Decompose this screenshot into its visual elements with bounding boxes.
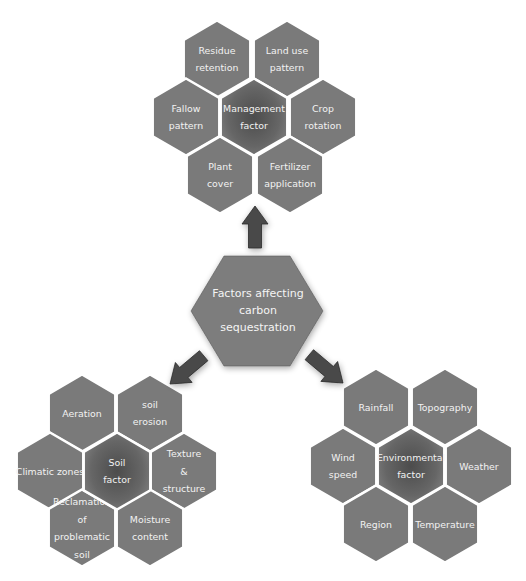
node-reclamation-label-line: soil <box>74 549 90 560</box>
node-fertilizer-label-line: application <box>264 178 316 189</box>
node-weather-label-line: Weather <box>459 461 499 472</box>
node-fallow-label-line: Fallow <box>172 103 201 114</box>
node-plant-cover-label-line: Plant <box>208 161 232 172</box>
node-topography-label-line: Topography <box>417 402 473 413</box>
node-fertilizer-label-line: Fertilizer <box>270 161 311 172</box>
node-region-label-line: Region <box>360 519 392 530</box>
main-label-line: Factors affecting <box>212 287 303 300</box>
node-wind-speed-label-line: speed <box>329 469 357 480</box>
main-label-line: carbon <box>239 304 277 317</box>
node-rainfall-label-line: Rainfall <box>359 402 394 413</box>
carbon-sequestration-diagram: ResidueretentionLand usepatternFallowpat… <box>0 0 526 581</box>
arrow-down-left-icon <box>170 351 208 384</box>
node-environmental-factor-label-line: Environmental <box>377 452 445 463</box>
node-plant-cover-label-line: cover <box>207 178 233 189</box>
node-soil-factor-label-line: Soil <box>109 457 126 468</box>
node-moisture-label-line: content <box>132 531 168 542</box>
node-texture-label-line: Texture <box>166 448 202 459</box>
node-climatic-zones-label-line: Climatic zones <box>16 466 84 477</box>
node-temperature-label-line: Temperature <box>414 519 475 530</box>
node-wind-speed-label-line: Wind <box>331 452 355 463</box>
node-aeration-label-line: Aeration <box>62 408 102 419</box>
node-management-factor-label-line: Management <box>223 103 285 114</box>
arrow-up-icon <box>242 206 268 248</box>
node-fallow-label-line: pattern <box>169 120 204 131</box>
cluster-environmental: RainfallTopographyWindspeedWeatherRegion… <box>310 369 513 563</box>
node-texture-label-line: & <box>180 466 188 477</box>
node-reclamation-label-line: of <box>77 514 87 525</box>
node-soil-erosion-label-line: soil <box>142 399 158 410</box>
node-reclamation-label-line: problematic <box>54 531 110 542</box>
arrow-down-right-icon <box>305 350 343 383</box>
node-crop-label-line: Crop <box>312 103 334 114</box>
node-residue-label-line: Residue <box>198 45 235 56</box>
node-management-factor-label-line: factor <box>240 120 268 131</box>
node-factors-affecting-carbon-sequestration: Factors affectingcarbonsequestration <box>191 256 323 366</box>
main-label-line: sequestration <box>220 321 296 334</box>
node-soil-erosion-label-line: erosion <box>133 416 167 427</box>
cluster-soil: AerationsoilerosionClimatic zonesTexture… <box>16 375 217 567</box>
node-land-use-label-line: Land use <box>266 45 309 56</box>
node-soil-factor-label-line: factor <box>103 474 131 485</box>
main-node-layer: Factors affectingcarbonsequestration <box>191 256 323 366</box>
node-environmental-factor-label-line: factor <box>397 469 425 480</box>
node-residue-label-line: retention <box>196 62 239 73</box>
cluster-management: ResidueretentionLand usepatternFallowpat… <box>153 21 357 214</box>
node-moisture-label-line: Moisture <box>130 514 171 525</box>
node-crop-label-line: rotation <box>305 120 342 131</box>
node-texture-label-line: structure <box>163 483 206 494</box>
node-land-use-label-line: pattern <box>270 62 305 73</box>
